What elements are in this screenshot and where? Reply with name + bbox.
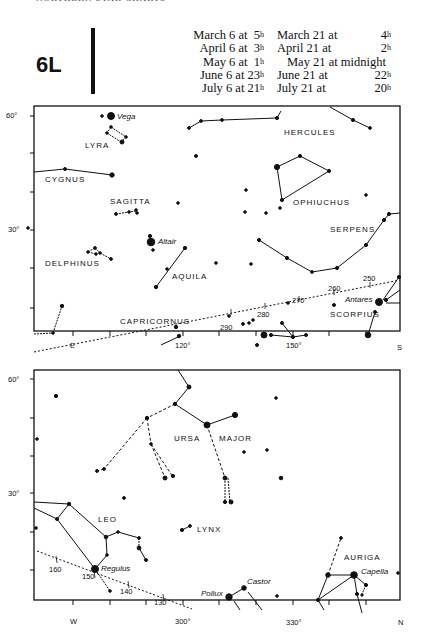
axis-label-w: W — [70, 617, 78, 626]
ecliptic-label-130: 130 — [154, 598, 167, 607]
ecliptic-label-250: 250 — [363, 274, 376, 283]
label-capricornus: CAPRICORNUS — [120, 317, 190, 326]
star-label-regulus: Regulus — [101, 564, 130, 573]
label-aquila: AQUILA — [172, 272, 207, 281]
star-label-altair: Altair — [157, 237, 177, 246]
label-major: MAJOR — [219, 434, 252, 443]
label-sagitta: SAGITTA — [110, 197, 151, 206]
ecliptic-label-140: 140 — [120, 587, 133, 596]
label-scorpius: SCORPIUS — [330, 310, 380, 319]
label-lynx: LYNX — [197, 525, 221, 534]
ecliptic-label-150: 150 — [82, 572, 95, 581]
label-ophiuchus: OPHIUCHUS — [293, 198, 350, 207]
star-label-capella: Capella — [361, 567, 389, 576]
label-ursa: URSA — [174, 434, 200, 443]
ecliptic-label-160: 160 — [49, 565, 62, 574]
axis-label-330: 330° — [286, 618, 302, 627]
label-leo: LEO — [98, 515, 117, 524]
axis-label-e: E — [70, 341, 75, 350]
axis-label-150: 150° — [286, 341, 302, 350]
label-hercules: HERCULES — [284, 128, 336, 137]
dec-label-60: 60° — [8, 375, 19, 384]
star-label-vega: Vega — [117, 112, 136, 121]
label-auriga: AURIGA — [344, 553, 381, 562]
axis-label-s: S — [397, 343, 402, 352]
lower-chart-labels: 60° 30° W 300° 330° N URSA MAJOR LEO LYN… — [8, 375, 403, 627]
ecliptic-label-280: 280 — [257, 310, 270, 319]
axis-label-120: 120° — [175, 341, 191, 350]
axis-label-n: N — [398, 618, 403, 627]
star-label-antares: Antares — [344, 295, 373, 304]
axis-label-300: 300° — [175, 617, 191, 626]
star-charts: 60° 30° E 120° 150° S LYRA CYGNUS SAGITT… — [0, 0, 421, 638]
upper-chart-labels: 60° 30° E 120° 150° S LYRA CYGNUS SAGITT… — [6, 111, 402, 352]
star-label-pollux: Pollux — [201, 589, 224, 598]
dec-label-30: 30° — [8, 225, 19, 234]
ecliptic-label-270: 270 — [292, 296, 305, 305]
label-lyra: LYRA — [85, 141, 109, 150]
label-cygnus: CYGNUS — [45, 175, 85, 184]
star-label-castor: Castor — [247, 577, 271, 586]
dec-label-60: 60° — [6, 111, 17, 120]
label-serpens: SERPENS — [330, 225, 375, 234]
label-delphinus: DELPHINUS — [45, 259, 100, 268]
dec-label-30: 30° — [8, 489, 19, 498]
ecliptic-label-260: 260 — [328, 284, 341, 293]
ecliptic-label-290: 290 — [220, 323, 233, 332]
